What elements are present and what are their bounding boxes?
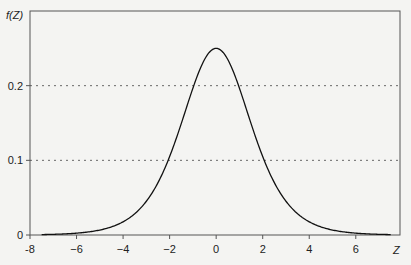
x-tick-label: −4 <box>117 243 130 255</box>
density-curve <box>42 48 391 234</box>
x-tick-label: -8 <box>25 243 35 255</box>
y-axis-label: f(Z) <box>6 9 23 21</box>
y-tick-label: 0 <box>17 229 23 241</box>
x-axis-label: Z <box>392 244 401 256</box>
x-tick-label: 2 <box>260 243 266 255</box>
x-tick-label: −6 <box>70 243 83 255</box>
gridlines <box>30 86 400 161</box>
x-axis-ticks: -8−6−4−20246 <box>25 235 359 255</box>
x-tick-label: −2 <box>163 243 176 255</box>
chart: -8−6−4−20246 00.10.2 Z f(Z) <box>0 0 411 265</box>
y-tick-label: 0.1 <box>8 154 23 166</box>
x-tick-label: 4 <box>306 243 312 255</box>
y-tick-label: 0.2 <box>8 80 23 92</box>
x-tick-label: 0 <box>213 243 219 255</box>
plot-frame <box>30 11 400 235</box>
x-tick-label: 6 <box>353 243 359 255</box>
y-axis-ticks: 00.10.2 <box>8 80 30 241</box>
